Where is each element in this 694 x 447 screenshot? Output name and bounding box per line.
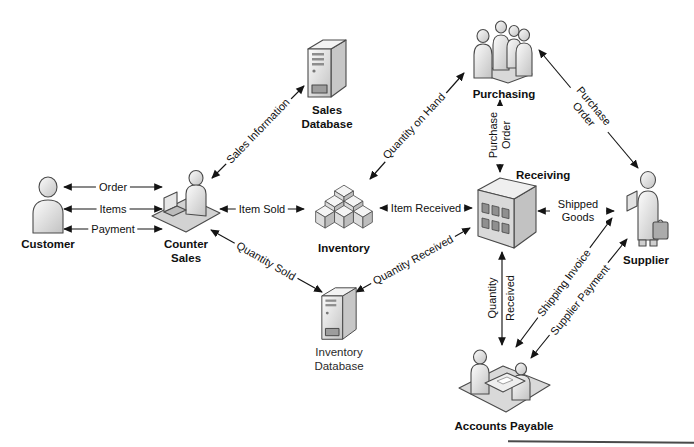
person-icon [26, 176, 70, 234]
stacked-boxes-icon [312, 176, 376, 238]
database-server-icon [304, 38, 350, 100]
people-at-table-icon [457, 342, 552, 416]
node-label-counter-sales: Counter Sales [159, 237, 213, 265]
node-purchasing: Purchasing [462, 18, 546, 101]
edge-label-order: Order [96, 181, 130, 194]
database-server-icon [316, 286, 362, 342]
node-receiving [476, 176, 538, 250]
person-with-briefcase-icon [620, 170, 672, 250]
node-sales-database: Sales Database [292, 38, 362, 131]
edge-label-item-received: Item Received [388, 202, 464, 215]
node-accounts-payable: Accounts Payable [452, 342, 556, 433]
node-label-sales-database: Sales Database [297, 103, 357, 131]
node-customer: Customer [8, 176, 88, 251]
node-supplier: Supplier [610, 170, 682, 267]
node-inventory-database: Inventory Database [306, 286, 372, 373]
diagram-canvas: Customer Counter Sales Sales Database [0, 0, 694, 447]
node-label-accounts-payable: Accounts Payable [454, 419, 553, 433]
edge-label-payment: Payment [88, 223, 137, 236]
node-label-receiving: Receiving [516, 169, 588, 181]
edge-label-item-sold: Item Sold [236, 203, 288, 216]
node-counter-sales: Counter Sales [146, 166, 226, 265]
edge-label-purchase-order-vertical: Purchase Order [487, 106, 512, 164]
node-inventory: Inventory [300, 176, 388, 255]
edge-label-quantity-received-vertical: Quantity Received [484, 268, 519, 328]
edge-label-items: Items [97, 203, 130, 216]
warehouse-building-icon [476, 176, 538, 250]
node-label-purchasing: Purchasing [473, 87, 536, 101]
person-at-desk-icon [150, 166, 222, 234]
node-label-inventory: Inventory [318, 241, 370, 255]
node-label-customer: Customer [21, 237, 75, 251]
edge-label-shipped-goods: Shipped Goods [550, 198, 606, 223]
node-label-inventory-database: Inventory Database [307, 345, 371, 373]
people-group-icon [470, 18, 538, 84]
node-label-supplier: Supplier [623, 253, 669, 267]
